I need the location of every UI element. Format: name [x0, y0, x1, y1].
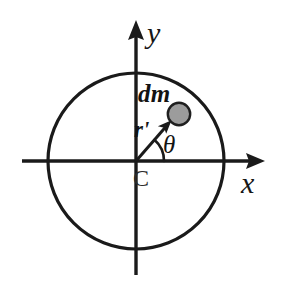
x-axis-label: x [241, 168, 254, 198]
arrow-up-icon [128, 20, 144, 40]
disc-center-label: C [133, 166, 149, 190]
angle-label: θ [163, 132, 175, 157]
physics-diagram-figure: y x dm r' θ C [0, 0, 291, 292]
radius-vector-label: r' [134, 118, 149, 141]
y-axis-label: y [147, 18, 160, 48]
mass-element-label: dm [138, 81, 171, 106]
diagram-canvas [0, 0, 291, 292]
mass-element-blob [168, 103, 190, 125]
